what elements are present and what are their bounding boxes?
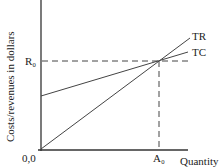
origin-label: 0,0 <box>22 153 36 164</box>
a0-tick-label: A₀ <box>153 153 165 164</box>
r0-tick-label: R₀ <box>25 56 36 67</box>
chart-canvas <box>0 0 220 167</box>
y-axis-label: Costs/revenues in dollars <box>4 31 16 142</box>
tr-label: TR <box>192 31 206 42</box>
tr-line <box>41 38 190 149</box>
tc-line <box>41 52 188 96</box>
x-axis-label: Quantity <box>180 156 219 167</box>
tc-label: TC <box>192 47 206 58</box>
